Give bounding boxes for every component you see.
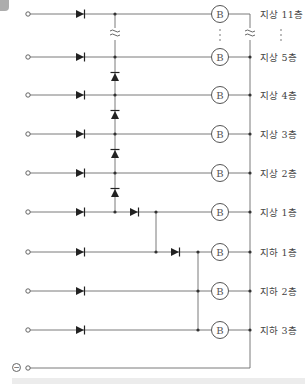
break-symbols <box>110 30 255 36</box>
floor-label-b2: 지하 2층 <box>260 284 297 298</box>
junction-dots <box>113 12 251 331</box>
cascade-diodes <box>130 208 180 257</box>
wires <box>30 14 250 368</box>
floor-label-4f: 지상 4층 <box>260 88 297 102</box>
bottom-divider <box>12 378 305 384</box>
floor-label-2f: 지상 2층 <box>260 166 297 180</box>
floor-label-1f: 지상 1층 <box>260 205 297 219</box>
floor-label-5f: 지상 5층 <box>260 50 297 64</box>
floor-label-b1: 지하 1층 <box>260 245 297 259</box>
negative-terminal-icon: − <box>12 363 21 372</box>
input-diodes <box>76 10 85 335</box>
input-terminals <box>26 12 30 370</box>
floor-label-b3: 지하 3층 <box>260 323 297 337</box>
floor-label-3f: 지상 3층 <box>260 127 297 141</box>
floor-label-11f: 지상 11층 <box>260 7 303 21</box>
lamps <box>212 6 229 339</box>
